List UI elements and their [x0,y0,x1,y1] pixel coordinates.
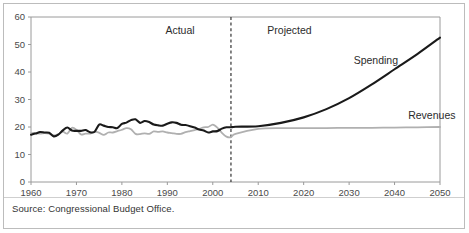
y-tick-label: 50 [14,39,25,50]
source-divider [4,197,464,198]
label-actual: Actual [165,24,194,36]
x-axis-ticks: 1960197019801990200020102020203020402050 [20,182,450,198]
chart-figure: 0102030405060196019701980199020002010202… [0,0,469,233]
y-tick-label: 40 [14,66,25,77]
y-tick-label: 0 [20,176,25,187]
series-label-spending: Spending [354,54,399,66]
y-tick-label: 30 [14,94,25,105]
series-label-revenues: Revenues [408,109,455,121]
y-tick-label: 20 [14,121,25,132]
plot-background [31,17,440,182]
label-projected: Projected [267,24,312,36]
source-note: Source: Congressional Budget Office. [12,203,174,214]
y-tick-label: 60 [14,11,25,22]
y-tick-label: 10 [14,149,25,160]
y-axis-ticks: 0102030405060 [14,11,31,187]
chart-plot: 0102030405060196019701980199020002010202… [0,0,469,233]
